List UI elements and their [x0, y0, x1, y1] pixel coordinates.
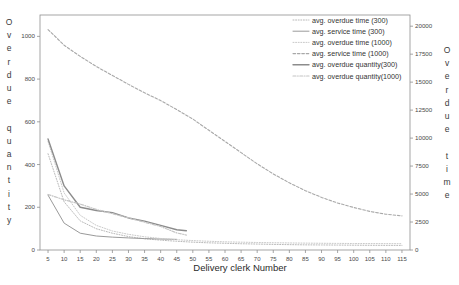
y-axis-left-tick-label: 600 — [25, 118, 36, 125]
axis-title-char: e — [2, 42, 16, 55]
y-axis-right-tick-label: 2500 — [415, 218, 429, 225]
chart-container: 0200400600800100002500500075001000012500… — [0, 0, 459, 285]
x-axis-tick-label: 115 — [397, 256, 407, 262]
x-axis-tick-label: 30 — [125, 256, 132, 262]
axis-title-char: e — [440, 189, 454, 202]
y-axis-right-tick-label: 15000 — [415, 78, 433, 85]
y-axis-left-tick-label: 200 — [25, 203, 36, 210]
x-axis-tick-label: 35 — [141, 256, 148, 262]
y-axis-left-title: Overdue quantity — [2, 16, 16, 227]
axis-title-char — [440, 136, 454, 149]
axis-title-char: i — [2, 188, 16, 201]
axis-title-char: r — [440, 84, 454, 97]
axis-title-char: r — [2, 56, 16, 69]
axis-title-char: e — [440, 123, 454, 136]
series-line-4 — [48, 139, 186, 231]
axis-title-char: u — [2, 135, 16, 148]
y-axis-left-tick-label: 800 — [25, 75, 36, 82]
y-axis-left-tick-label: 0 — [32, 246, 36, 253]
axis-title-char: v — [2, 29, 16, 42]
axis-title-char — [2, 108, 16, 121]
axis-title-char: a — [2, 148, 16, 161]
y-axis-right-tick-label: 5000 — [415, 190, 429, 197]
series-line-0 — [48, 154, 402, 246]
legend-label-5: avg. overdue quantity(1000) — [312, 72, 402, 81]
x-axis-tick-label: 10 — [61, 256, 68, 262]
axis-title-char: u — [2, 82, 16, 95]
axis-title-char: v — [440, 57, 454, 70]
axis-title-char: O — [2, 16, 16, 29]
x-axis-tick-label: 95 — [334, 256, 341, 262]
x-axis-tick-label: 100 — [349, 256, 360, 262]
axis-title-char: e — [2, 95, 16, 108]
axis-title-char: u — [440, 110, 454, 123]
y-axis-right-tick-label: 20000 — [415, 22, 433, 29]
y-axis-left-tick-label: 1000 — [21, 32, 35, 39]
x-axis-tick-label: 25 — [109, 256, 116, 262]
axis-title-char: y — [2, 214, 16, 227]
axis-title-char: O — [440, 44, 454, 57]
y-axis-right-tick-label: 12500 — [415, 106, 433, 113]
axis-title-char: t — [440, 150, 454, 163]
axis-title-char: e — [440, 70, 454, 83]
legend-label-4: avg. overdue quantity(300) — [312, 60, 398, 69]
x-axis-title: Delivery clerk Number — [150, 262, 330, 273]
y-axis-right-tick-label: 7500 — [415, 162, 429, 169]
x-axis-tick-label: 5 — [46, 256, 50, 262]
x-axis-tick-label: 20 — [93, 256, 100, 262]
y-axis-right-tick-label: 0 — [415, 246, 419, 253]
axis-title-char: t — [2, 201, 16, 214]
y-axis-right-title: Overdue time — [440, 44, 454, 202]
legend-label-3: avg. service time (1000) — [312, 49, 389, 58]
x-axis-tick-label: 105 — [365, 256, 376, 262]
axis-title-char: d — [2, 69, 16, 82]
axis-title-char: t — [2, 174, 16, 187]
y-axis-right-tick-label: 17500 — [415, 50, 433, 57]
axis-title-char: i — [440, 163, 454, 176]
y-axis-left-tick-label: 400 — [25, 161, 36, 168]
series-line-2 — [48, 141, 402, 243]
axis-title-char: n — [2, 161, 16, 174]
series-line-5 — [48, 194, 186, 235]
axis-title-char: m — [440, 176, 454, 189]
legend-label-2: avg. overdue time (1000) — [312, 38, 392, 47]
x-axis-tick-label: 15 — [77, 256, 84, 262]
axis-title-char: q — [2, 122, 16, 135]
axis-title-char: d — [440, 97, 454, 110]
chart-svg: 0200400600800100002500500075001000012500… — [0, 0, 459, 285]
y-axis-right-tick-label: 10000 — [415, 134, 433, 141]
legend-label-0: avg. overdue time (300) — [312, 16, 388, 25]
legend-label-1: avg. service time (300) — [312, 27, 385, 36]
x-axis-tick-label: 110 — [381, 256, 391, 262]
